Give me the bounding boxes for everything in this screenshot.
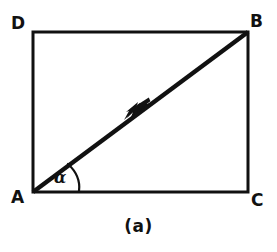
angle-label-alpha: α	[54, 170, 66, 186]
vertex-label-b: B	[250, 13, 263, 30]
vertex-label-a: A	[11, 189, 24, 206]
figure-caption: (a)	[0, 216, 277, 236]
vertex-label-d: D	[11, 15, 25, 32]
angle-arc	[68, 164, 79, 191]
vertex-label-c: C	[251, 192, 263, 209]
figure-container: D B A C α (a)	[0, 0, 277, 252]
geometry-diagram	[0, 0, 277, 252]
